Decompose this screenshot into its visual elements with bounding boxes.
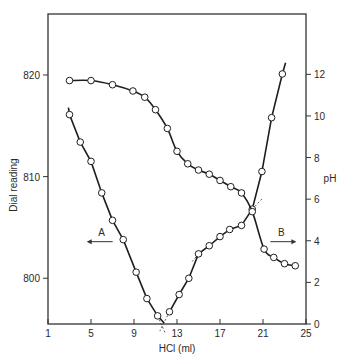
- x-tick-label: 13: [171, 328, 183, 339]
- data-point-marker: [186, 275, 193, 282]
- right-y-tick-label: 2: [314, 277, 320, 288]
- right-y-tick-label: 6: [314, 194, 320, 205]
- right-y-tick-label: 0: [314, 319, 320, 330]
- data-point-marker: [66, 111, 73, 118]
- right-y-axis-label: pH: [324, 173, 337, 184]
- x-tick-label: 25: [300, 328, 312, 339]
- data-series: [66, 63, 298, 323]
- data-point-marker: [227, 183, 234, 190]
- data-point-marker: [174, 148, 181, 155]
- data-point-marker: [292, 262, 299, 269]
- data-point-marker: [144, 295, 151, 302]
- x-tick-label: 21: [257, 328, 269, 339]
- data-point-marker: [154, 313, 161, 320]
- left-y-tick-label: 800: [23, 273, 40, 284]
- data-point-marker: [195, 251, 202, 258]
- x-tick-label: 1: [45, 328, 51, 339]
- data-point-marker: [206, 171, 213, 178]
- data-point-marker: [217, 177, 224, 184]
- x-tick-label: 5: [88, 328, 94, 339]
- data-point-marker: [176, 291, 183, 298]
- x-axis-label: HCl (ml): [159, 343, 196, 354]
- x-tick-label: 17: [214, 328, 226, 339]
- data-point-marker: [88, 158, 95, 165]
- data-point-marker: [109, 81, 116, 88]
- titration-chart: 15913172125 800810820 024681012 AB HCl (…: [0, 0, 343, 360]
- left-y-axis-ticks: 800810820: [23, 70, 48, 284]
- data-point-marker: [141, 94, 148, 101]
- data-point-marker: [166, 309, 173, 316]
- data-point-marker: [109, 217, 116, 224]
- data-point-marker: [270, 254, 277, 261]
- data-point-marker: [195, 167, 202, 174]
- data-point-marker: [164, 125, 171, 132]
- data-point-marker: [238, 222, 245, 229]
- right-y-tick-label: 4: [314, 236, 320, 247]
- annotation-label: A: [98, 227, 105, 238]
- data-point-marker: [281, 260, 288, 267]
- left-y-axis-label: Dial reading: [8, 158, 19, 211]
- x-tick-label: 9: [131, 328, 137, 339]
- data-point-marker: [206, 242, 213, 249]
- data-point-marker: [77, 139, 84, 146]
- data-point-marker: [259, 168, 266, 175]
- data-point-marker: [98, 190, 105, 197]
- data-point-marker: [249, 208, 256, 215]
- right-y-axis-ticks: 024681012: [306, 69, 326, 330]
- data-point-marker: [217, 233, 224, 240]
- right-y-tick-label: 12: [314, 69, 326, 80]
- data-point-marker: [66, 77, 73, 84]
- left-y-tick-label: 810: [23, 172, 40, 183]
- right-y-tick-label: 10: [314, 111, 326, 122]
- data-point-marker: [279, 71, 286, 78]
- data-point-marker: [238, 190, 245, 197]
- annotation-label: B: [278, 227, 285, 238]
- data-point-marker: [133, 269, 140, 276]
- data-point-marker: [120, 236, 127, 243]
- data-point-marker: [130, 88, 137, 95]
- right-y-tick-label: 8: [314, 153, 320, 164]
- data-point-marker: [268, 114, 275, 121]
- data-point-marker: [184, 160, 191, 167]
- x-axis-ticks: 15913172125: [45, 319, 312, 339]
- left-y-tick-label: 820: [23, 70, 40, 81]
- data-point-marker: [261, 246, 268, 253]
- data-point-marker: [226, 226, 233, 233]
- data-point-marker: [152, 106, 159, 113]
- plot-frame: [48, 14, 306, 324]
- data-point-marker: [88, 77, 95, 84]
